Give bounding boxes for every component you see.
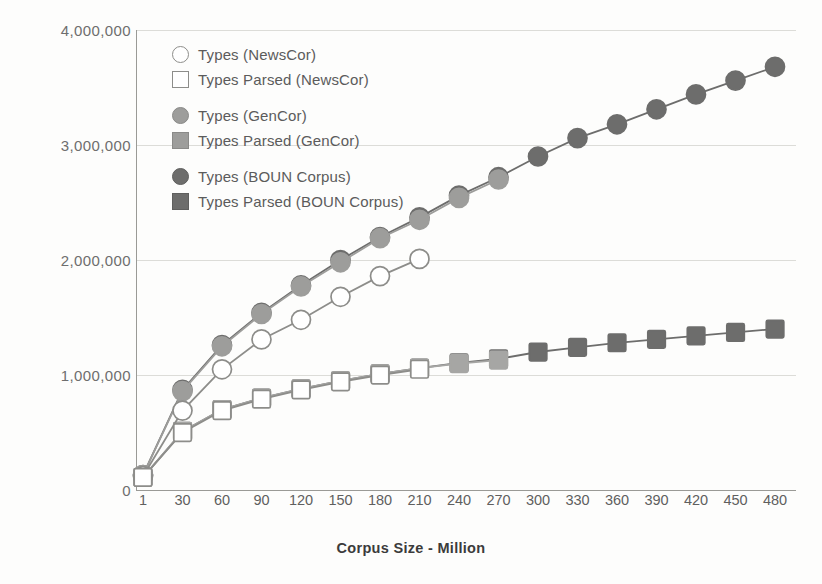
- x-axis-tick-label: 300: [526, 492, 550, 508]
- data-point-marker: [608, 334, 626, 352]
- x-axis-tick-label: 180: [368, 492, 392, 508]
- x-axis-tick-label: 420: [684, 492, 708, 508]
- series-line: [143, 360, 499, 477]
- x-axis-line: [136, 490, 796, 491]
- legend-item: Types Parsed (BOUN Corpus): [172, 189, 404, 214]
- data-point-marker: [410, 210, 429, 229]
- data-point-marker: [489, 170, 508, 189]
- x-axis-tick-label: 90: [253, 492, 269, 508]
- data-point-marker: [331, 253, 350, 272]
- mid-circle-swatch: [172, 107, 189, 124]
- data-point-marker: [450, 355, 468, 373]
- x-axis-tick-label: 210: [407, 492, 431, 508]
- data-point-marker: [726, 71, 745, 90]
- data-point-marker: [569, 339, 587, 357]
- y-axis-tick-label: 3,000,000: [61, 137, 131, 154]
- mid-square-swatch: [172, 132, 189, 149]
- data-point-marker: [647, 100, 666, 119]
- legend-item: Types (BOUN Corpus): [172, 164, 404, 189]
- dark-square-swatch: [172, 193, 189, 210]
- legend-item-label: Types Parsed (GenCor): [198, 132, 360, 149]
- legend-item: Types Parsed (GenCor): [172, 128, 404, 153]
- data-point-marker: [253, 390, 270, 408]
- series-line: [143, 180, 499, 476]
- x-axis-tick-label: 240: [447, 492, 471, 508]
- data-point-marker: [252, 330, 271, 349]
- data-point-marker: [173, 382, 192, 401]
- legend-item-label: Types (BOUN Corpus): [198, 168, 351, 185]
- dark-circle-swatch: [172, 168, 189, 185]
- x-axis-title: Corpus Size - Million: [0, 540, 822, 556]
- data-point-marker: [766, 320, 784, 338]
- x-axis-tick-label: 30: [174, 492, 190, 508]
- series-types-parsed-gencor: [134, 351, 507, 486]
- data-point-marker: [371, 366, 389, 384]
- data-point-marker: [648, 331, 666, 349]
- data-point-marker: [490, 351, 508, 369]
- data-point-marker: [173, 401, 192, 420]
- data-point-marker: [410, 249, 429, 268]
- data-point-marker: [331, 287, 350, 306]
- data-point-marker: [371, 267, 390, 286]
- data-point-marker: [213, 402, 231, 420]
- data-point-marker: [529, 147, 548, 166]
- x-axis-tick-label: 360: [605, 492, 629, 508]
- legend-item: Types Parsed (NewsCor): [172, 67, 404, 92]
- data-point-marker: [292, 310, 311, 329]
- x-axis-tick-label: 270: [486, 492, 510, 508]
- x-axis-tick-label: 390: [644, 492, 668, 508]
- data-point-marker: [568, 129, 587, 148]
- data-point-marker: [213, 360, 232, 379]
- y-axis-tick-label: 2,000,000: [61, 252, 131, 269]
- chart-legend: Types (NewsCor)Types Parsed (NewsCor)Typ…: [172, 42, 404, 214]
- data-point-marker: [292, 381, 310, 399]
- data-point-marker: [411, 361, 429, 379]
- data-point-marker: [292, 277, 311, 296]
- x-axis-tick-label: 1: [139, 492, 147, 508]
- chart-container: 01,000,0002,000,0003,000,0004,000,000 Ty…: [0, 0, 822, 584]
- legend-item-label: Types Parsed (NewsCor): [198, 71, 369, 88]
- x-axis-tick-label: 330: [565, 492, 589, 508]
- data-point-marker: [371, 229, 390, 248]
- data-point-marker: [134, 469, 152, 487]
- legend-item-label: Types (NewsCor): [198, 46, 316, 63]
- data-point-marker: [687, 85, 706, 104]
- series-line: [143, 329, 775, 477]
- x-axis-tick-label: 60: [214, 492, 230, 508]
- x-axis-tick-label: 450: [723, 492, 747, 508]
- open-square-swatch: [172, 71, 189, 88]
- legend-item-label: Types Parsed (BOUN Corpus): [198, 193, 404, 210]
- data-point-marker: [213, 337, 232, 356]
- legend-item: Types (NewsCor): [172, 42, 404, 67]
- data-point-marker: [529, 343, 547, 361]
- x-axis-tick-label: 120: [289, 492, 313, 508]
- x-axis-tick-label: 480: [763, 492, 787, 508]
- data-point-marker: [727, 324, 745, 342]
- y-axis-tick-label: 1,000,000: [61, 367, 131, 384]
- data-point-marker: [174, 424, 192, 442]
- data-point-marker: [450, 188, 469, 207]
- data-point-marker: [252, 305, 271, 324]
- y-axis-tick-label: 4,000,000: [61, 22, 131, 39]
- x-axis-tick-label: 150: [328, 492, 352, 508]
- data-point-marker: [687, 327, 705, 345]
- data-point-marker: [608, 115, 627, 134]
- x-axis-tick-labels: 1306090120150180210240270300330360390420…: [0, 492, 822, 516]
- data-point-marker: [332, 373, 350, 391]
- data-point-marker: [766, 57, 785, 76]
- legend-item-label: Types (GenCor): [198, 107, 307, 124]
- series-types-parsed-newscor: [134, 361, 428, 487]
- legend-item: Types (GenCor): [172, 103, 404, 128]
- open-circle-swatch: [172, 46, 189, 63]
